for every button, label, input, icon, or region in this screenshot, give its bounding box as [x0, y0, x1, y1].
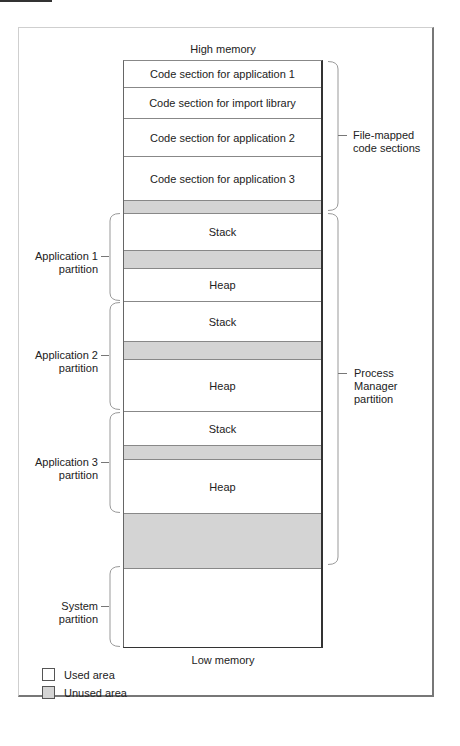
unused-area-1 — [124, 201, 321, 214]
system-partition-label: System partition — [59, 600, 98, 626]
process-manager-label: Process Manager partition — [354, 367, 397, 406]
app3-partition-label: Application 3 partition — [35, 456, 98, 482]
brace-left-app1 — [108, 213, 122, 301]
legend-used-label: Used area — [64, 669, 115, 682]
header-rule — [0, 0, 52, 2]
code-section-import-library: Code section for import library — [124, 88, 321, 119]
tick-app3 — [101, 462, 109, 463]
code-section-app3: Code section for application 3 — [124, 157, 321, 201]
memory-map: Code section for application 1 Code sect… — [123, 60, 323, 648]
tick-file-mapped — [338, 135, 347, 136]
app3-heap: Heap — [124, 460, 321, 514]
file-mapped-label: File-mapped code sections — [353, 129, 420, 155]
tick-app2 — [101, 355, 109, 356]
system-partition-block — [124, 569, 321, 647]
app2-heap: Heap — [124, 360, 321, 412]
tick-system — [101, 606, 109, 607]
unused-area-4 — [124, 446, 321, 460]
brace-right-process-manager — [327, 213, 341, 565]
brace-left-system — [108, 566, 122, 647]
legend-unused-label: Unused area — [64, 687, 127, 700]
tick-app1 — [101, 256, 109, 257]
code-section-app1: Code section for application 1 — [124, 61, 321, 88]
unused-area-3 — [124, 342, 321, 360]
brace-left-app3 — [108, 412, 122, 513]
app2-partition-label: Application 2 partition — [35, 349, 98, 375]
code-section-app2: Code section for application 2 — [124, 119, 321, 157]
low-memory-label: Low memory — [123, 654, 323, 667]
tick-process-manager — [338, 373, 347, 374]
legend-swatch-unused — [42, 686, 55, 699]
brace-left-app2 — [108, 302, 122, 410]
high-memory-label: High memory — [123, 43, 323, 56]
app1-partition-label: Application 1 partition — [35, 250, 98, 276]
unused-area-5 — [124, 514, 321, 569]
legend-swatch-used — [42, 668, 55, 681]
app1-heap: Heap — [124, 269, 321, 302]
app3-stack: Stack — [124, 412, 321, 446]
app1-stack: Stack — [124, 214, 321, 251]
unused-area-2 — [124, 251, 321, 269]
brace-right-file-mapped — [327, 61, 341, 211]
app2-stack: Stack — [124, 302, 321, 342]
